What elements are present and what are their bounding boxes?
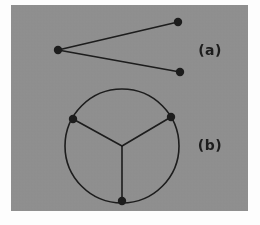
- graph-vertex: [174, 18, 182, 26]
- figure-canvas: (a) (b): [0, 0, 260, 225]
- graph-vertex: [54, 46, 62, 54]
- graph-vertex: [69, 115, 77, 123]
- graph-vertex: [118, 197, 126, 205]
- graph-figure: (a) (b): [0, 0, 260, 225]
- subfigure-b-label: (b): [198, 137, 222, 153]
- subfigure-a-label: (a): [198, 42, 222, 58]
- figure-panel: [11, 5, 248, 211]
- graph-vertex: [176, 68, 184, 76]
- graph-vertex: [167, 113, 175, 121]
